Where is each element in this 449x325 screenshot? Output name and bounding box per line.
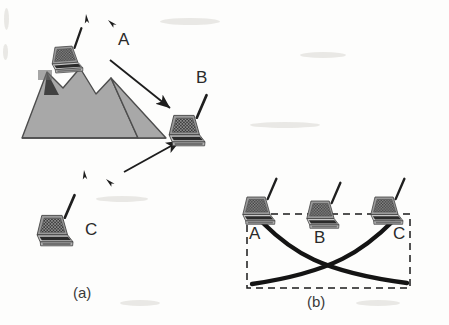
node-label-a: A (118, 30, 130, 50)
panel-b-curves (252, 221, 407, 284)
node-label-b: B (196, 68, 208, 88)
signal-mark-a-1 (84, 14, 92, 24)
panel-caption-b: (b) (307, 293, 325, 310)
signal-mark-c-1 (82, 170, 90, 180)
node-label-b-a: A (249, 224, 261, 244)
laptop-node-b-b (307, 183, 341, 229)
laptop-node-b-c (371, 179, 405, 225)
node-label-b-c: C (393, 224, 406, 244)
laptop-node-b (169, 95, 206, 146)
laptop-node-b-a (243, 179, 277, 225)
node-label-b-b: B (314, 228, 326, 248)
mountain-obstacle (22, 68, 166, 138)
node-label-c: C (85, 220, 98, 240)
signal-mark-c-2 (106, 176, 115, 187)
laptop-node-c (37, 195, 74, 246)
laptop-node-a (50, 28, 85, 73)
signal-mark-a-2 (108, 17, 117, 28)
panel-a-graphics (0, 0, 449, 325)
figure-root: A B C A B C (a) (b) (0, 0, 449, 325)
panel-caption-a: (a) (73, 284, 91, 301)
